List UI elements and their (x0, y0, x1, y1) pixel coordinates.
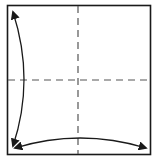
origami-diagram (0, 0, 166, 160)
